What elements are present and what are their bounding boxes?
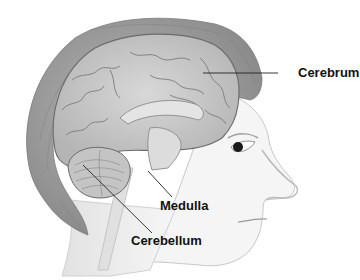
cerebrum-label: Cerebrum bbox=[298, 66, 359, 79]
cerebellum bbox=[68, 147, 130, 198]
medulla-label: Medulla bbox=[160, 199, 208, 212]
medulla-leader bbox=[148, 171, 172, 197]
brain-diagram: Cerebrum Medulla Cerebellum bbox=[0, 0, 360, 280]
cerebellum-label: Cerebellum bbox=[131, 234, 202, 247]
